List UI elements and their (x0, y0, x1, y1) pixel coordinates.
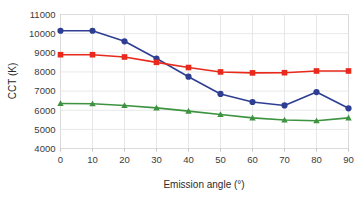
data-point-marker (90, 52, 96, 58)
x-tick-label: 50 (215, 154, 226, 165)
data-point-marker (346, 68, 352, 74)
data-point-marker (218, 69, 224, 75)
x-tick-label: 90 (343, 154, 354, 165)
data-point-marker (154, 60, 160, 66)
data-point-marker (186, 65, 192, 71)
y-axis-title: CCT (K) (7, 63, 18, 99)
data-point-marker (121, 38, 127, 44)
data-point-marker (281, 102, 287, 108)
cct-vs-emission-angle-chart: 4000500060007000800090001000011000 01020… (0, 0, 362, 200)
data-point-marker (89, 28, 95, 34)
y-tick-label: 8000 (34, 66, 55, 77)
y-tick-label: 5000 (34, 124, 55, 135)
data-point-marker (57, 28, 63, 34)
data-point-marker (282, 70, 288, 76)
x-tick-label: 80 (311, 154, 322, 165)
x-tick-label: 10 (87, 154, 98, 165)
data-point-marker (122, 54, 128, 60)
data-point-marker (313, 89, 319, 95)
x-tick-label: 0 (58, 154, 63, 165)
data-point-marker (314, 68, 320, 74)
y-tick-label: 4000 (34, 143, 55, 154)
data-point-marker (58, 52, 64, 58)
x-tick-label: 40 (183, 154, 194, 165)
data-point-marker (185, 74, 191, 80)
x-axis-title: Emission angle (°) (163, 179, 244, 190)
y-tick-label: 7000 (34, 85, 55, 96)
data-point-marker (345, 105, 351, 111)
x-tick-label: 20 (119, 154, 130, 165)
data-point-marker (249, 99, 255, 105)
x-tick-label: 60 (247, 154, 258, 165)
x-tick-label: 70 (279, 154, 290, 165)
data-point-marker (217, 91, 223, 97)
y-tick-label: 11000 (30, 9, 56, 20)
y-tick-label: 6000 (34, 105, 55, 116)
y-tick-label: 10000 (29, 28, 55, 39)
chart-container: 4000500060007000800090001000011000 01020… (0, 0, 362, 200)
x-tick-label: 30 (151, 154, 162, 165)
y-tick-label: 9000 (34, 47, 55, 58)
data-point-marker (250, 70, 256, 76)
